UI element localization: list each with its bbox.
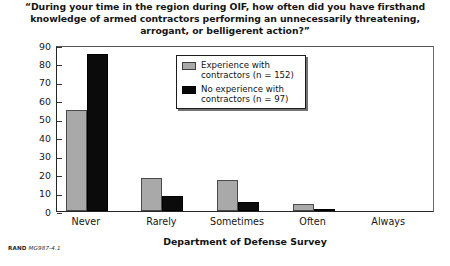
legend-item-label: Experience with contractors (n = 152) bbox=[201, 60, 300, 81]
y-axis-tick-label: 10 bbox=[21, 189, 51, 198]
y-axis-tick-label: 60 bbox=[21, 97, 51, 106]
y-axis-tick-label: 80 bbox=[21, 60, 51, 69]
y-axis-tick-label: 90 bbox=[21, 42, 51, 51]
x-axis-title: Department of Defense Survey bbox=[56, 236, 434, 247]
bar bbox=[238, 202, 259, 211]
source-prefix: RAND bbox=[8, 245, 27, 251]
x-axis-tick-label: Rarely bbox=[118, 216, 204, 227]
legend-swatch-icon bbox=[182, 86, 196, 94]
y-axis-tick-label: 20 bbox=[21, 171, 51, 180]
source-id: MG987-4.1 bbox=[29, 245, 61, 251]
y-axis-tick-label: 30 bbox=[21, 152, 51, 161]
x-axis-tick-label: Never bbox=[43, 216, 129, 227]
legend-item: No experience with contractors (n = 97) bbox=[182, 84, 300, 105]
y-axis-tick-label: 70 bbox=[21, 78, 51, 87]
bar bbox=[314, 209, 335, 211]
chart-title: “During your time in the region during O… bbox=[22, 1, 428, 38]
legend-item-label: No experience with contractors (n = 97) bbox=[201, 84, 300, 105]
figure-source-note: RAND MG987-4.1 bbox=[8, 245, 61, 251]
x-axis-tick-label: Always bbox=[345, 216, 431, 227]
y-axis-tick-mark bbox=[57, 213, 62, 214]
legend-item: Experience with contractors (n = 152) bbox=[182, 60, 300, 81]
bar bbox=[141, 178, 162, 211]
legend-swatch-icon bbox=[182, 62, 196, 70]
bar bbox=[87, 54, 108, 211]
x-axis-tick-label: Often bbox=[270, 216, 356, 227]
bar bbox=[217, 180, 238, 211]
bar bbox=[293, 204, 314, 211]
bar bbox=[162, 196, 183, 211]
chart-legend: Experience with contractors (n = 152) No… bbox=[176, 55, 306, 109]
y-axis-tick-label: 40 bbox=[21, 134, 51, 143]
y-axis-tick-label: 50 bbox=[21, 115, 51, 124]
bar bbox=[66, 110, 87, 211]
x-axis-tick-label: Sometimes bbox=[194, 216, 280, 227]
